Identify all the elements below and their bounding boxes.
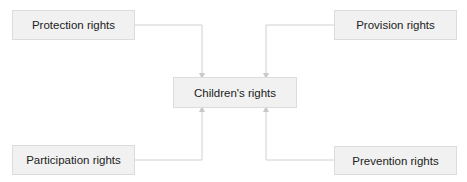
node-label: Children's rights (194, 87, 276, 99)
node-label: Participation rights (26, 154, 121, 166)
node-prevention-rights: Prevention rights (334, 146, 457, 175)
edge-participation (135, 109, 202, 160)
node-label: Prevention rights (352, 155, 438, 167)
node-childrens-rights: Children's rights (173, 77, 297, 108)
node-protection-rights: Protection rights (12, 10, 135, 40)
node-participation-rights: Participation rights (12, 145, 135, 175)
node-provision-rights: Provision rights (334, 10, 457, 40)
edge-protection (135, 25, 202, 76)
node-label: Provision rights (356, 19, 435, 31)
edge-prevention (266, 109, 334, 160)
node-label: Protection rights (32, 19, 115, 31)
edge-provision (266, 25, 334, 76)
